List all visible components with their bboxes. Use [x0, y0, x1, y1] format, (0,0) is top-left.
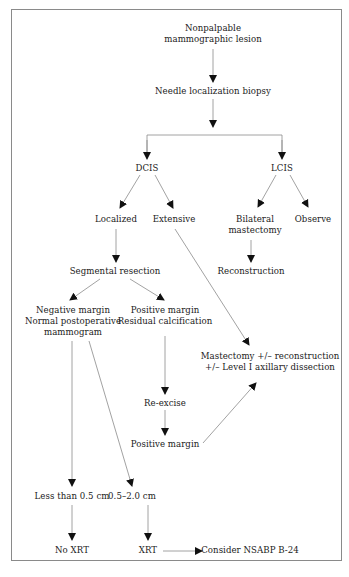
node-text: Bilateral — [228, 214, 281, 225]
node-text: Re-excise — [144, 398, 186, 409]
node-text: Residual calcification — [118, 316, 212, 327]
node-text: mammographic lesion — [164, 34, 261, 45]
node-less-than-0-5-cm: Less than 0.5 cm — [35, 491, 110, 502]
node-segmental-resection: Segmental resection — [70, 266, 161, 277]
node-localized: Localized — [95, 214, 137, 225]
node-text: No XRT — [55, 545, 89, 556]
node-text: DCIS — [136, 163, 159, 174]
node-text: Extensive — [153, 214, 196, 225]
node-text: mastectomy — [228, 225, 281, 236]
node-text: Localized — [95, 214, 137, 225]
flowchart-canvas: Nonpalpable mammographic lesion Needle l… — [0, 0, 349, 577]
edge-segmental-negative — [70, 279, 100, 300]
node-0-5-to-2-0-cm: 0.5–2.0 cm — [108, 491, 156, 502]
node-consider-nsabp: Consider NSABP B-24 — [201, 545, 299, 556]
edge-dcis-extensive — [155, 175, 173, 208]
node-text: Consider NSABP B-24 — [201, 545, 299, 556]
node-dcis: DCIS — [136, 163, 159, 174]
node-text: Needle localization biopsy — [155, 86, 271, 97]
node-extensive: Extensive — [153, 214, 196, 225]
edge-lcis-bilateral — [258, 175, 276, 207]
node-re-excise: Re-excise — [144, 398, 186, 409]
node-text: XRT — [139, 545, 157, 556]
node-text: 0.5–2.0 cm — [108, 491, 156, 502]
node-text: Positive margin — [118, 305, 212, 316]
node-text: mammogram — [25, 327, 121, 338]
node-positive-margin-2: Positive margin — [131, 439, 200, 450]
node-bilateral-mastectomy: Bilateral mastectomy — [228, 214, 281, 236]
node-text: Mastectomy +/– reconstruction — [201, 351, 340, 362]
node-xrt: XRT — [139, 545, 157, 556]
node-observe: Observe — [295, 214, 331, 225]
edge-lcis-observe — [290, 175, 308, 207]
node-reconstruction: Reconstruction — [217, 266, 284, 277]
node-text: Reconstruction — [217, 266, 284, 277]
node-no-xrt: No XRT — [55, 545, 89, 556]
node-text: Normal postoperative — [25, 316, 121, 327]
node-text: +/– Level I axillary dissection — [201, 362, 340, 373]
node-mastectomy: Mastectomy +/– reconstruction +/– Level … — [201, 351, 340, 373]
node-positive-margin: Positive margin Residual calcification — [118, 305, 212, 327]
node-text: Observe — [295, 214, 331, 225]
node-negative-margin: Negative margin Normal postoperative mam… — [25, 305, 121, 338]
edge-split-bar — [147, 135, 282, 158]
node-text: Nonpalpable — [164, 23, 261, 34]
node-text: Segmental resection — [70, 266, 161, 277]
node-text: Less than 0.5 cm — [35, 491, 110, 502]
node-text: Positive margin — [131, 439, 200, 450]
edge-dcis-localized — [120, 175, 140, 208]
edge-extensive-mastectomy — [175, 229, 249, 345]
edge-negative-r0520 — [89, 341, 132, 486]
node-lcis: LCIS — [271, 163, 293, 174]
node-text: LCIS — [271, 163, 293, 174]
node-nonpalpable-lesion: Nonpalpable mammographic lesion — [164, 23, 261, 45]
node-text: Negative margin — [25, 305, 121, 316]
edge-positive2-mastectomy — [203, 383, 256, 443]
edge-segmental-positive — [130, 279, 164, 300]
node-needle-biopsy: Needle localization biopsy — [155, 86, 271, 97]
